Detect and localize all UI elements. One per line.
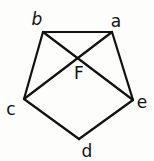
- side-de: [79, 100, 133, 139]
- side-ea: [112, 32, 133, 100]
- edges-group: [24, 32, 133, 139]
- vertex-label-e: e: [137, 92, 147, 112]
- vertex-label-a: a: [111, 11, 121, 31]
- diagonal-be: [43, 32, 133, 100]
- diagonal-ac: [24, 32, 112, 99]
- side-bc: [24, 32, 43, 99]
- intersection-label-f: F: [74, 63, 84, 83]
- side-cd: [24, 99, 79, 139]
- vertex-label-d: d: [82, 141, 93, 161]
- vertex-label-c: c: [6, 99, 15, 119]
- pentagon-diagram: b a F c e d: [0, 0, 154, 161]
- vertex-label-b: b: [32, 9, 43, 29]
